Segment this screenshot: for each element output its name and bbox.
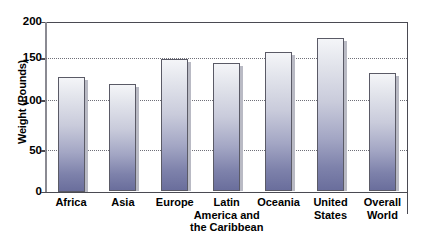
y-tick-label: 150	[4, 52, 42, 64]
bar[interactable]	[213, 63, 240, 191]
bar[interactable]	[265, 52, 292, 191]
bar[interactable]	[109, 84, 136, 192]
bar[interactable]	[317, 38, 344, 192]
x-axis-category-label: Overall World	[337, 196, 421, 221]
y-tick-label: 200	[4, 16, 42, 28]
x-axis-line	[45, 192, 408, 194]
bar[interactable]	[369, 73, 396, 191]
y-tick-label: 100	[4, 95, 42, 107]
y-tick-label: 50	[4, 145, 42, 157]
gridline-150	[46, 58, 407, 59]
bar[interactable]	[161, 59, 188, 192]
y-axis-line	[45, 22, 47, 193]
bar[interactable]	[58, 77, 85, 192]
bar-chart: Weight (Pounds) 200 150 100 50 0 AfricaA…	[0, 0, 421, 241]
